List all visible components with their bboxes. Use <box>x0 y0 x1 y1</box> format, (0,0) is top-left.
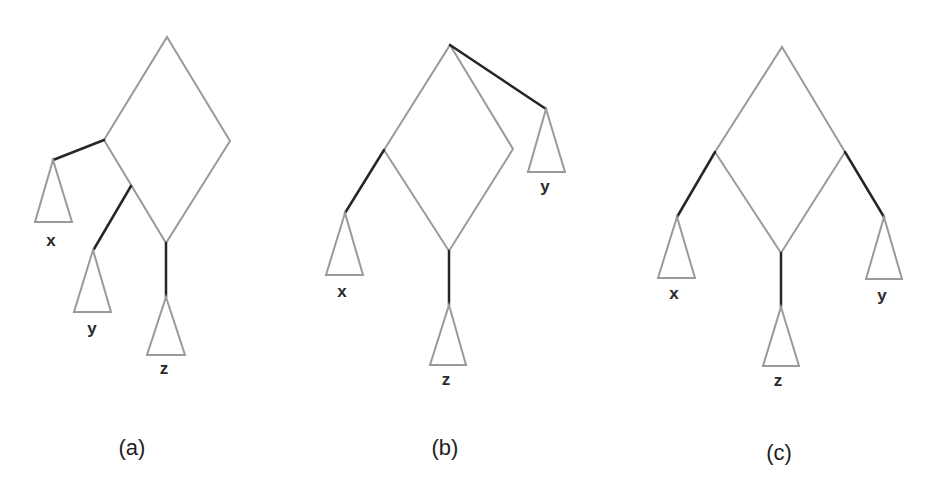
diamond-a <box>104 37 230 243</box>
label-b-z: z <box>442 370 451 389</box>
label-a-x: x <box>46 231 56 250</box>
subtree-b-z <box>430 305 466 365</box>
diagram-canvas: x y z (a) x y z (b) x y z (c) <box>0 0 941 491</box>
label-b-x: x <box>337 282 347 301</box>
subtree-b-x <box>326 213 363 275</box>
edge-a-to-x <box>53 140 104 160</box>
subtree-a-x <box>35 160 72 222</box>
edge-c-to-x <box>677 152 715 217</box>
panel-b: x y z (b) <box>326 45 565 460</box>
subtree-c-z <box>763 307 799 366</box>
caption-b: (b) <box>432 435 459 460</box>
label-a-z: z <box>160 359 169 378</box>
label-a-y: y <box>87 319 97 338</box>
subtree-c-x <box>658 217 695 278</box>
diamond-b <box>384 45 513 251</box>
edge-b-to-y <box>450 45 546 109</box>
label-c-x: x <box>669 284 679 303</box>
subtree-b-y <box>528 109 565 172</box>
edge-a-to-y <box>94 186 131 249</box>
subtree-a-y <box>74 250 111 312</box>
panel-a: x y z (a) <box>35 37 230 460</box>
subtree-a-z <box>147 297 185 355</box>
caption-a: (a) <box>119 435 146 460</box>
label-c-z: z <box>774 371 783 390</box>
panel-c: x y z (c) <box>658 47 902 465</box>
diamond-c-outer <box>715 47 845 253</box>
edge-c-to-y <box>845 152 884 217</box>
caption-c: (c) <box>766 440 792 465</box>
edge-b-to-x <box>345 150 384 213</box>
subtree-c-y <box>866 217 902 279</box>
label-b-y: y <box>540 177 550 196</box>
label-c-y: y <box>877 286 887 305</box>
